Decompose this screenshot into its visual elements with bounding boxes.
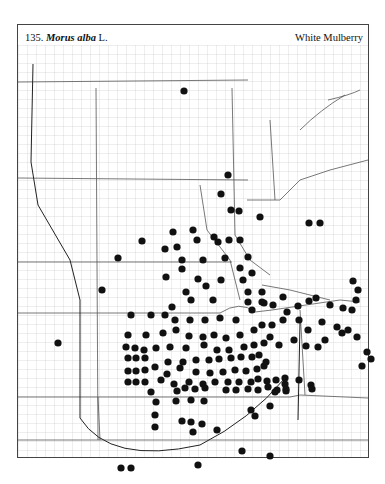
occurrence-dot — [157, 376, 164, 383]
occurrence-dot — [192, 356, 199, 363]
occurrence-dot — [141, 366, 148, 373]
occurrence-dot — [333, 323, 340, 330]
occurrence-dot — [151, 423, 158, 430]
occurrence-dot — [215, 355, 222, 362]
occurrence-dot — [236, 331, 243, 338]
occurrence-dot — [236, 236, 243, 243]
occurrence-dot — [290, 336, 297, 343]
occurrence-dot — [164, 358, 171, 365]
occurrence-dot — [151, 363, 158, 370]
occurrence-dot — [189, 226, 196, 233]
occurrence-dot — [258, 288, 265, 295]
occurrence-dot — [305, 297, 312, 304]
occurrence-dot — [140, 346, 147, 353]
occurrence-dot — [161, 311, 168, 318]
occurrence-dot — [235, 207, 242, 214]
occurrence-dot — [294, 302, 301, 309]
occurrence-dot — [127, 311, 134, 318]
occurrence-dot — [232, 386, 239, 393]
occurrence-dot — [268, 321, 275, 328]
occurrence-dot — [213, 426, 220, 433]
occurrence-dot — [258, 321, 265, 328]
occurrence-dot — [217, 276, 224, 283]
occurrence-dot — [240, 343, 247, 350]
occurrence-dot — [247, 378, 254, 385]
occurrence-dot — [200, 341, 207, 348]
occurrence-dot — [187, 418, 194, 425]
occurrence-dot — [198, 420, 205, 427]
occurrence-dot — [124, 367, 131, 374]
occurrence-dot — [222, 334, 229, 341]
occurrence-dot — [169, 228, 176, 235]
occurrence-dot — [275, 341, 282, 348]
occurrence-dot — [227, 354, 234, 361]
occurrence-dot — [236, 264, 243, 271]
occurrence-dot — [185, 332, 192, 339]
occurrence-dot — [225, 346, 232, 353]
occurrence-dot — [178, 265, 185, 272]
occurrence-dot — [272, 376, 279, 383]
occurrence-dot — [159, 329, 166, 336]
occurrence-dot — [114, 254, 121, 261]
occurrence-dot — [54, 339, 61, 346]
occurrence-dot — [214, 238, 221, 245]
occurrence-dot — [263, 377, 270, 384]
occurrence-dot — [254, 375, 261, 382]
occurrence-dot — [221, 254, 228, 261]
occurrence-dot — [248, 306, 255, 313]
occurrence-dot — [256, 213, 263, 220]
occurrence-dot — [237, 353, 244, 360]
occurrence-dot — [189, 428, 196, 435]
occurrence-dot — [170, 380, 177, 387]
occurrence-dot — [201, 316, 208, 323]
occurrence-dot — [244, 298, 251, 305]
occurrence-dot — [260, 299, 267, 306]
occurrence-dot — [260, 362, 267, 369]
distribution-map — [0, 0, 385, 484]
occurrence-dot — [210, 331, 217, 338]
occurrence-dot — [326, 301, 333, 308]
occurrence-dot — [199, 256, 206, 263]
occurrence-dot — [251, 412, 258, 419]
occurrence-dot — [173, 387, 180, 394]
occurrence-dot — [182, 344, 189, 351]
occurrence-dot — [344, 326, 351, 333]
occurrence-dot — [260, 339, 267, 346]
occurrence-dot — [209, 296, 216, 303]
occurrence-dot — [352, 296, 359, 303]
occurrence-dot — [176, 364, 183, 371]
occurrence-dot — [187, 296, 194, 303]
occurrence-dot — [171, 316, 178, 323]
occurrence-dot — [295, 376, 302, 383]
occurrence-dot — [363, 348, 370, 355]
occurrence-dot — [168, 303, 175, 310]
occurrence-dot — [231, 366, 238, 373]
occurrence-dot — [279, 316, 286, 323]
occurrence-dot — [219, 368, 226, 375]
occurrence-dot — [172, 397, 179, 404]
occurrence-dot — [250, 326, 257, 333]
occurrence-dot — [232, 316, 239, 323]
occurrence-dot — [255, 351, 262, 358]
occurrence-dot — [281, 374, 288, 381]
occurrence-dot — [308, 385, 315, 392]
occurrence-dot — [318, 318, 325, 325]
occurrence-dot — [224, 378, 231, 385]
occurrence-dot — [339, 304, 346, 311]
occurrence-dot — [269, 301, 276, 308]
occurrence-dot — [185, 378, 192, 385]
occurrence-dot — [141, 354, 148, 361]
occurrence-dot — [124, 378, 131, 385]
occurrence-dot — [266, 402, 273, 409]
occurrence-dot — [242, 367, 249, 374]
occurrence-dot — [211, 378, 218, 385]
occurrence-dot — [248, 353, 255, 360]
occurrence-dot — [152, 398, 159, 405]
occurrence-dot — [235, 378, 242, 385]
occurrence-dot — [132, 367, 139, 374]
occurrence-dot — [199, 333, 206, 340]
occurrence-dot — [216, 314, 223, 321]
occurrence-dot — [253, 365, 260, 372]
occurrence-dot — [222, 386, 229, 393]
occurrence-dot — [238, 447, 245, 454]
